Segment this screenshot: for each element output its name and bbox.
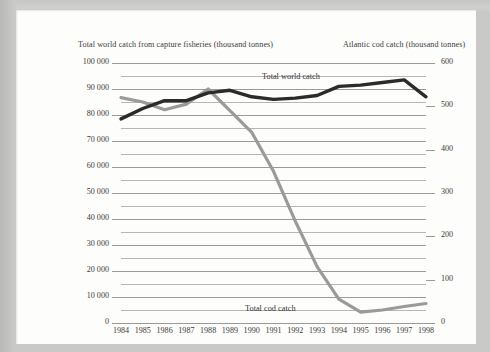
world-catch-series-label: Total world catch (262, 72, 320, 81)
right-axis-tick-label: 600 (441, 57, 490, 66)
left-axis-tick-label: 80 000 (47, 109, 109, 118)
right-tick-mark (426, 106, 435, 107)
right-axis-tick-label: 200 (441, 230, 490, 239)
data-lines (121, 63, 426, 323)
cod-catch-series-label: Total cod catch (245, 304, 296, 313)
gridline-major (121, 323, 426, 324)
left-tick-mark (112, 245, 121, 246)
x-axis-tick-label: 1984 (113, 326, 129, 335)
x-axis-tick-label: 1994 (331, 326, 347, 335)
x-axis-tick-label: 1987 (178, 326, 194, 335)
right-tick-mark (426, 193, 435, 194)
left-tick-mark (112, 89, 121, 90)
right-tick-mark (426, 63, 435, 64)
right-tick-mark (426, 280, 435, 281)
left-axis-tick-label: 40 000 (47, 213, 109, 222)
x-axis-tick-label: 1985 (135, 326, 151, 335)
left-tick-mark (112, 323, 121, 324)
cod-catch-line (121, 89, 426, 312)
left-axis-title: Total world catch from capture fisheries… (78, 40, 273, 49)
x-axis-tick-label: 1990 (244, 326, 260, 335)
right-axis-tick-label: 300 (441, 187, 490, 196)
right-axis-tick-label: 400 (441, 144, 490, 153)
left-axis-tick-label: 0 (47, 317, 109, 326)
chart-plot-area: 010 00020 00030 00040 00050 00060 00070 … (121, 63, 426, 323)
left-axis-tick-label: 30 000 (47, 239, 109, 248)
right-tick-mark (426, 323, 435, 324)
left-axis-tick-label: 100 000 (47, 57, 109, 66)
right-axis-tick-label: 100 (441, 274, 490, 283)
x-axis-tick-label: 1989 (222, 326, 238, 335)
right-tick-mark (426, 150, 435, 151)
left-tick-mark (112, 141, 121, 142)
world-catch-line (121, 80, 426, 119)
x-axis-tick-label: 1993 (309, 326, 325, 335)
left-axis-tick-label: 10 000 (47, 291, 109, 300)
left-tick-mark (112, 167, 121, 168)
left-axis-tick-label: 90 000 (47, 83, 109, 92)
left-tick-mark (112, 271, 121, 272)
right-tick-mark (426, 236, 435, 237)
x-axis-tick-label: 1988 (200, 326, 216, 335)
right-axis-tick-label: 500 (441, 100, 490, 109)
x-axis-tick-label: 1986 (157, 326, 173, 335)
right-axis-title: Atlantic cod catch (thousand tonnes) (343, 40, 465, 49)
x-axis-tick-label: 1995 (353, 326, 369, 335)
right-axis-tick-label: 0 (441, 317, 490, 326)
left-axis-tick-label: 70 000 (47, 135, 109, 144)
left-axis-tick-label: 60 000 (47, 161, 109, 170)
x-axis-tick-label: 1991 (265, 326, 281, 335)
left-axis-tick-label: 20 000 (47, 265, 109, 274)
left-tick-mark (112, 115, 121, 116)
x-axis-tick-label: 1992 (287, 326, 303, 335)
x-axis-tick-label: 1996 (374, 326, 390, 335)
page-sheet: Total world catch from capture fisheries… (16, 10, 476, 344)
left-tick-mark (112, 219, 121, 220)
x-axis-tick-label: 1997 (396, 326, 412, 335)
left-axis-tick-label: 50 000 (47, 187, 109, 196)
left-tick-mark (112, 193, 121, 194)
x-axis-tick-label: 1998 (418, 326, 434, 335)
left-tick-mark (112, 63, 121, 64)
x-axis-labels: 1984198519861987198819891990199119921993… (121, 326, 426, 340)
left-tick-mark (112, 297, 121, 298)
